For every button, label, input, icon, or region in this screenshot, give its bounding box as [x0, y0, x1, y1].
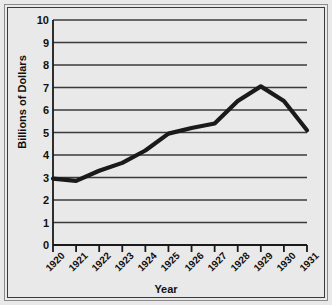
x-axis-title: Year	[0, 283, 332, 295]
y-tick-label: 7	[27, 82, 49, 93]
y-tick-label: 10	[27, 15, 49, 26]
y-tick-label: 4	[27, 150, 49, 161]
chart-canvas	[53, 20, 307, 245]
plot-area	[53, 20, 307, 245]
chart-figure: Billions of Dollars 012345678910 1920192…	[0, 0, 332, 305]
y-tick-label: 8	[27, 60, 49, 71]
y-tick-label: 1	[27, 217, 49, 228]
y-tick-label: 9	[27, 37, 49, 48]
y-axis-tick-labels: 012345678910	[25, 20, 49, 245]
y-tick-label: 6	[27, 105, 49, 116]
x-axis-tick-labels: 1920192119221923192419251926192719281929…	[53, 248, 307, 284]
y-tick-label: 0	[27, 240, 49, 251]
y-tick-label: 3	[27, 172, 49, 183]
y-tick-label: 5	[27, 127, 49, 138]
data-line-series	[53, 86, 307, 181]
gridlines	[53, 20, 307, 223]
y-tick-label: 2	[27, 195, 49, 206]
